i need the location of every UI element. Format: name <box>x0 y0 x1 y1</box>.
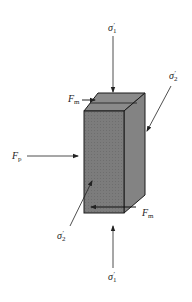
fm-bottom-label: Fm <box>141 207 154 220</box>
sigma1-bottom-label: σ1′ <box>108 270 117 284</box>
sigma2-right-arrow <box>147 86 171 131</box>
stress-block-diagram: σ1′ σ1′ σ2′ σ2′ Fp Fm Fm <box>0 0 192 302</box>
block-right-face <box>124 93 145 213</box>
block-front-face <box>84 111 124 213</box>
block <box>84 93 145 213</box>
sigma2-left-label: σ2′ <box>57 229 66 243</box>
fp-label: Fp <box>11 150 22 163</box>
sigma1-top-label: σ1′ <box>108 21 117 35</box>
sigma2-right-label: σ2′ <box>169 69 178 83</box>
fm-top-label: Fm <box>67 93 80 106</box>
